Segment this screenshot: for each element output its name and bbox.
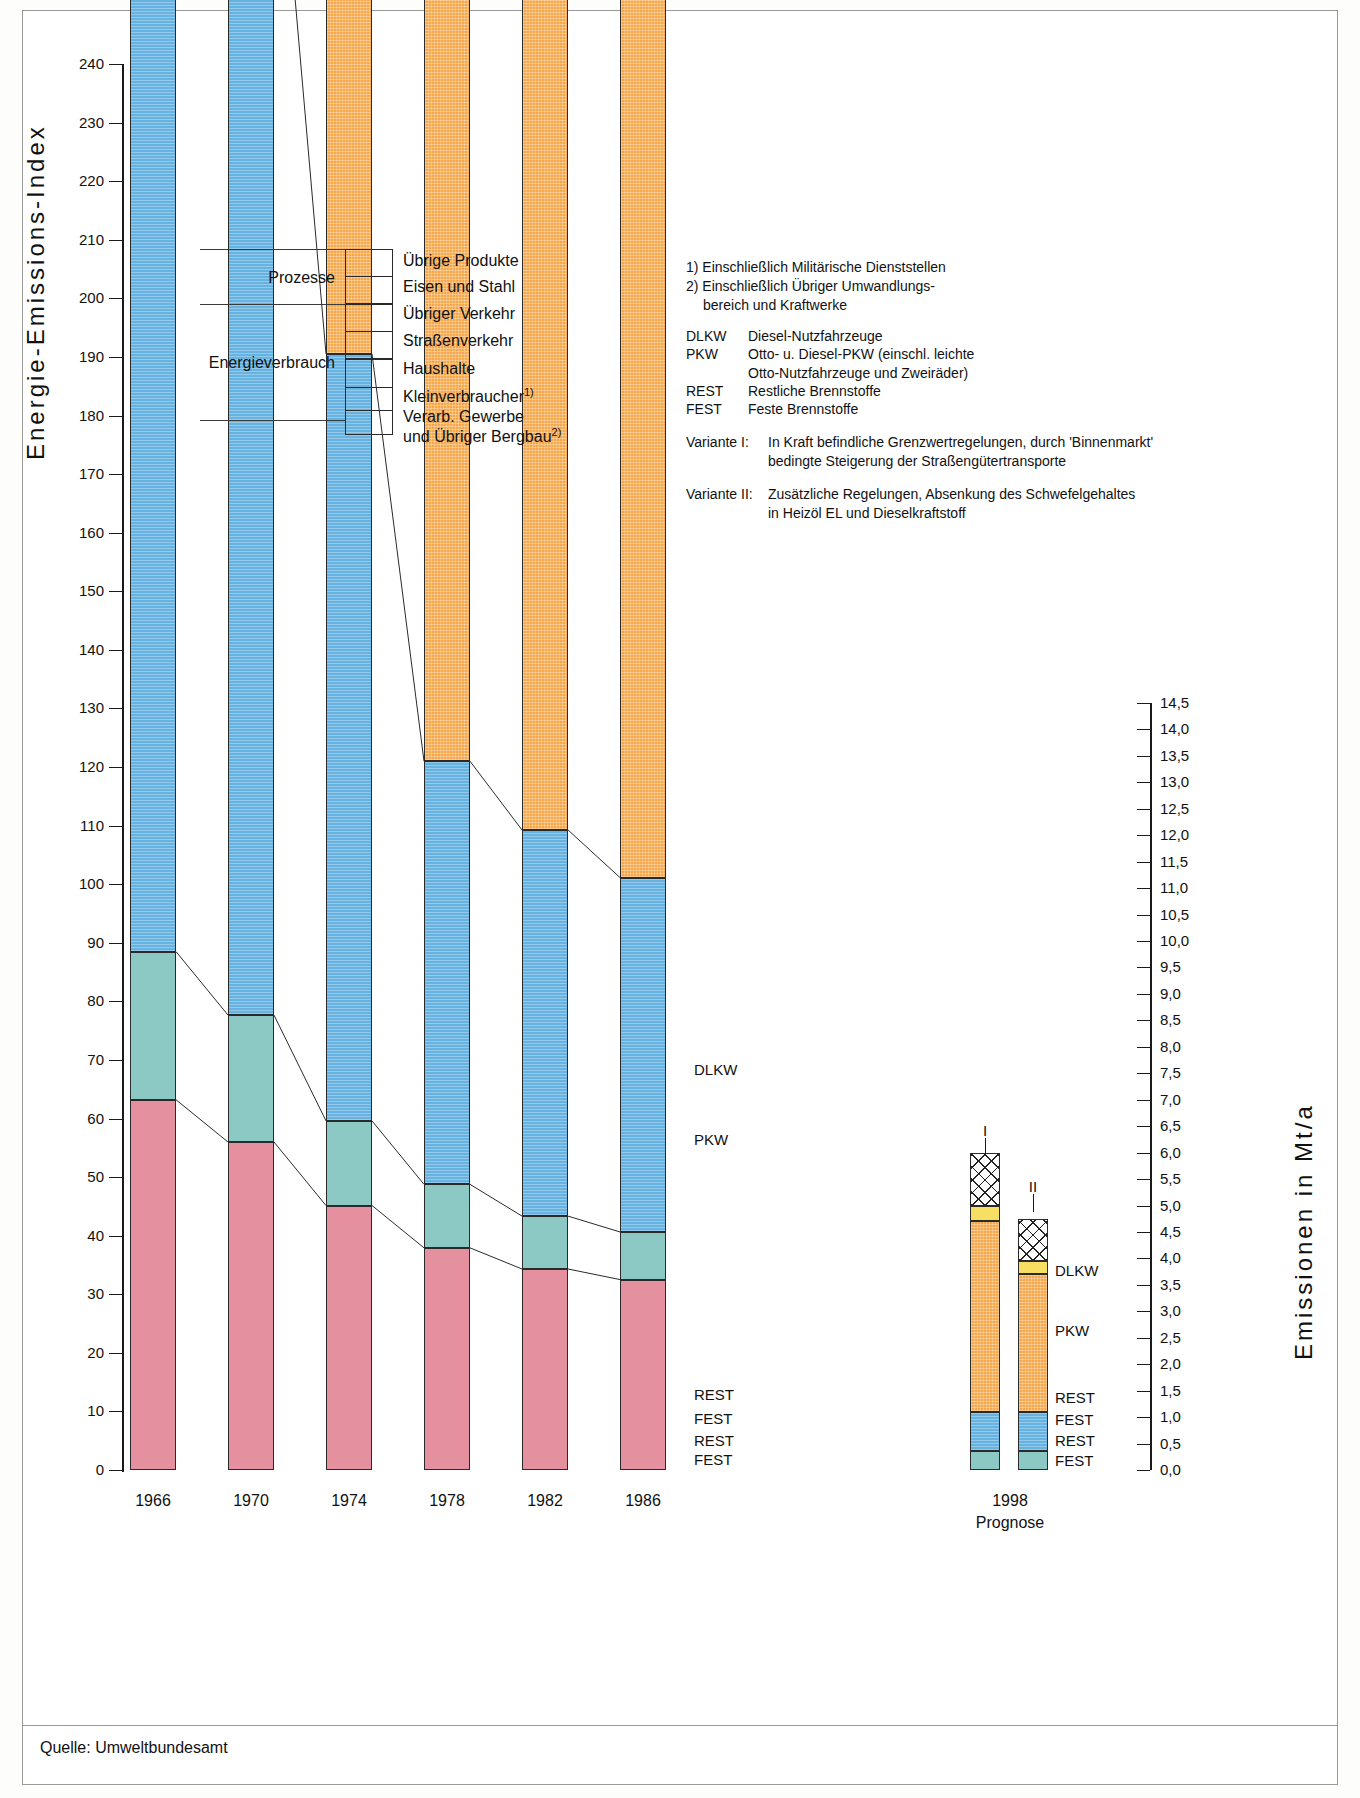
left-axis-tick bbox=[109, 1001, 122, 1002]
bar-segment-verarb-gewerbe bbox=[130, 1100, 176, 1470]
right-axis-tick bbox=[1137, 1311, 1150, 1312]
right-axis-tick bbox=[1137, 809, 1150, 810]
left-axis-tick-label: 200 bbox=[50, 289, 104, 306]
left-axis-tick-label: 0 bbox=[50, 1461, 104, 1478]
right-axis-tick-label: 0,0 bbox=[1160, 1461, 1220, 1478]
bar-1974[interactable] bbox=[326, 0, 372, 1470]
left-axis-tick bbox=[109, 943, 122, 944]
right-axis-tick bbox=[1137, 1285, 1150, 1286]
legend-label-kleinverbraucher-text: Kleinverbraucher bbox=[403, 388, 524, 405]
left-axis-tick bbox=[109, 357, 122, 358]
series-label-dlkw-main-0: DLKW bbox=[694, 1061, 737, 1078]
right-axis-tick-label: 11,5 bbox=[1160, 853, 1220, 870]
right-axis-tick-label: 4,0 bbox=[1160, 1249, 1220, 1266]
variant-value-1: In Kraft befindliche Grenzwertregelungen… bbox=[768, 433, 1153, 452]
right-axis-tick bbox=[1137, 1232, 1150, 1233]
legend-rule-top bbox=[200, 249, 345, 250]
abbr-value-dlkw: Diesel-Nutzfahrzeuge bbox=[748, 327, 883, 345]
bar-segment-uebriger-verkehr bbox=[1018, 1261, 1048, 1274]
bar-1998-i[interactable] bbox=[970, 1153, 1000, 1470]
abbr-key-fest: FEST bbox=[686, 400, 748, 418]
left-axis-tick-label: 130 bbox=[50, 699, 104, 716]
right-axis-tick bbox=[1137, 941, 1150, 942]
series-label-fest-main-5: FEST bbox=[694, 1451, 732, 1468]
legend-label-kleinverbraucher: Kleinverbraucher1) bbox=[403, 386, 534, 406]
left-axis-tick-label: 220 bbox=[50, 172, 104, 189]
left-axis-tick bbox=[109, 240, 122, 241]
right-axis-tick bbox=[1137, 1364, 1150, 1365]
left-axis-tick bbox=[109, 826, 122, 827]
left-axis-tick bbox=[109, 591, 122, 592]
left-axis-tick-label: 120 bbox=[50, 758, 104, 775]
left-axis-title: Energie-Emissions-Index bbox=[22, 0, 50, 460]
bar-1978[interactable] bbox=[424, 0, 470, 1470]
bar-segment-haushalte bbox=[326, 354, 372, 1121]
left-axis-tick bbox=[109, 1294, 122, 1295]
right-axis-tick bbox=[1137, 1338, 1150, 1339]
bar-1970[interactable] bbox=[228, 0, 274, 1470]
legend-label-strassenverkehr: Straßenverkehr bbox=[403, 332, 513, 350]
right-axis-tick bbox=[1137, 1206, 1150, 1207]
right-axis-tick bbox=[1137, 1391, 1150, 1392]
series-label-pkw-main-1: PKW bbox=[694, 1131, 728, 1148]
bar-segment-haushalte bbox=[522, 830, 568, 1216]
variant-row-2: Variante II: Zusätzliche Regelungen, Abs… bbox=[686, 485, 1246, 504]
right-axis-tick bbox=[1137, 1179, 1150, 1180]
left-axis-tick bbox=[109, 1060, 122, 1061]
variant-value-2: Zusätzliche Regelungen, Absenkung des Sc… bbox=[768, 485, 1135, 504]
notes-spacer-3 bbox=[686, 470, 1246, 483]
left-axis-tick-label: 20 bbox=[50, 1344, 104, 1361]
right-axis-tick bbox=[1137, 915, 1150, 916]
left-axis-tick bbox=[109, 1470, 122, 1471]
x-axis-tick-label: 1970 bbox=[206, 1492, 296, 1510]
left-axis-tick-label: 90 bbox=[50, 934, 104, 951]
series-label-rest-forecast-4: REST bbox=[1055, 1432, 1095, 1449]
right-axis-tick-label: 1,5 bbox=[1160, 1382, 1220, 1399]
right-axis-tick bbox=[1137, 1073, 1150, 1074]
left-axis-tick-label: 190 bbox=[50, 348, 104, 365]
right-axis-tick-label: 5,5 bbox=[1160, 1170, 1220, 1187]
legend-swatch-haushalte bbox=[345, 359, 393, 388]
chart-page: Energie-Emissions-Index Emissionen in Mt… bbox=[0, 0, 1360, 1798]
right-axis-line bbox=[1150, 703, 1152, 1470]
abbreviation-row-fest: FEST Feste Brennstoffe bbox=[686, 400, 1246, 418]
left-axis-tick bbox=[109, 1353, 122, 1354]
abbreviation-row-pkw-continued: Otto-Nutzfahrzeuge und Zweiräder) bbox=[686, 364, 1246, 382]
variant-marker-tick-2 bbox=[1033, 1194, 1034, 1212]
left-axis-tick bbox=[109, 533, 122, 534]
right-axis-tick bbox=[1137, 994, 1150, 995]
left-axis-tick-label: 110 bbox=[50, 817, 104, 834]
bar-1986[interactable] bbox=[620, 0, 666, 1470]
bar-segment-strassenverkehr bbox=[620, 0, 666, 878]
series-label-rest-main-4: REST bbox=[694, 1432, 734, 1449]
right-axis-tick bbox=[1137, 1153, 1150, 1154]
legend-label-uebriger-verkehr: Übriger Verkehr bbox=[403, 305, 515, 323]
legend-group-energieverbrauch: Energieverbrauch bbox=[200, 354, 335, 372]
left-axis-tick bbox=[109, 416, 122, 417]
variant-key-2: Variante II: bbox=[686, 485, 768, 504]
bar-segment-kleinverbraucher bbox=[620, 1232, 666, 1280]
left-axis-tick-label: 80 bbox=[50, 992, 104, 1009]
source-caption: Quelle: Umweltbundesamt bbox=[40, 1739, 228, 1757]
right-axis-tick-label: 13,5 bbox=[1160, 747, 1220, 764]
right-axis-tick-label: 10,5 bbox=[1160, 906, 1220, 923]
abbr-key-dlkw: DLKW bbox=[686, 327, 748, 345]
bar-segment-uebriger-verkehr bbox=[970, 1206, 1000, 1222]
bar-1998-ii[interactable] bbox=[1018, 1219, 1048, 1470]
bar-1966[interactable] bbox=[130, 0, 176, 1470]
left-axis-tick-label: 140 bbox=[50, 641, 104, 658]
abbr-value-rest: Restliche Brennstoffe bbox=[748, 382, 881, 400]
right-axis-tick bbox=[1137, 756, 1150, 757]
left-axis-tick-label: 60 bbox=[50, 1110, 104, 1127]
abbr-value-fest: Feste Brennstoffe bbox=[748, 400, 858, 418]
left-axis-tick bbox=[109, 181, 122, 182]
right-axis-tick-label: 2,0 bbox=[1160, 1355, 1220, 1372]
bar-1982[interactable] bbox=[522, 0, 568, 1470]
abbr-key-blank bbox=[686, 364, 748, 382]
bar-segment-haushalte bbox=[424, 761, 470, 1184]
right-axis-tick bbox=[1137, 1258, 1150, 1259]
right-axis-tick-label: 14,5 bbox=[1160, 694, 1220, 711]
series-label-fest-main-3: FEST bbox=[694, 1410, 732, 1427]
right-axis-tick bbox=[1137, 835, 1150, 836]
legend-label-haushalte: Haushalte bbox=[403, 360, 475, 378]
